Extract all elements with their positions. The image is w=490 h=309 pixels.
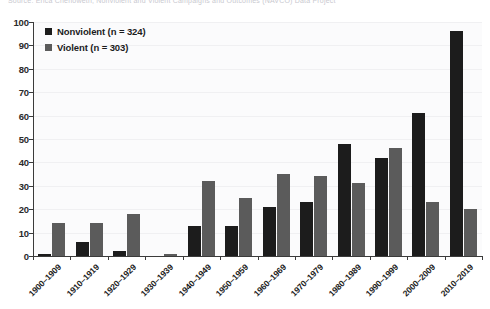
- bar-group: [450, 22, 477, 256]
- bar-group: [188, 22, 215, 256]
- x-tick-label: 2000–2009: [401, 262, 438, 299]
- x-tick-label: 1970–1979: [289, 262, 326, 299]
- x-tick-mark: [295, 256, 296, 260]
- y-tick-label: 100: [3, 17, 29, 28]
- x-tick-label: 1980–1989: [326, 262, 363, 299]
- bar-group: [338, 22, 365, 256]
- x-tick-mark: [70, 256, 71, 260]
- y-tick-label: 20: [3, 204, 29, 215]
- legend: Nonviolent (n = 324) Violent (n = 303): [45, 26, 146, 58]
- x-tick-mark: [258, 256, 259, 260]
- bar-group: [225, 22, 252, 256]
- chart-page: Source: Erica Chenoweth, Nonviolent and …: [0, 0, 490, 309]
- legend-swatch-nonviolent-icon: [45, 28, 52, 35]
- y-tick-label: 30: [3, 180, 29, 191]
- x-tick-label: 1900–1909: [27, 262, 64, 299]
- y-tick-mark: [29, 233, 33, 234]
- y-tick-mark: [29, 69, 33, 70]
- y-axis-line: [33, 22, 34, 257]
- x-tick-mark: [407, 256, 408, 260]
- bar-violent[interactable]: [90, 223, 103, 256]
- source-note: Source: Erica Chenoweth, Nonviolent and …: [8, 0, 482, 5]
- bar-group: [375, 22, 402, 256]
- bar-group: [150, 22, 177, 256]
- y-tick-label: 60: [3, 110, 29, 121]
- y-axis-labels: 0102030405060708090100: [0, 0, 29, 309]
- bar-violent[interactable]: [426, 202, 439, 256]
- x-tick-label: 1920–1929: [102, 262, 139, 299]
- legend-item-violent[interactable]: Violent (n = 303): [45, 42, 146, 53]
- bar-group: [412, 22, 439, 256]
- y-tick-mark: [29, 22, 33, 23]
- y-tick-mark: [29, 45, 33, 46]
- bar-violent[interactable]: [352, 183, 365, 256]
- legend-label-nonviolent: Nonviolent (n = 324): [57, 26, 146, 37]
- x-tick-mark: [332, 256, 333, 260]
- y-tick-mark: [29, 186, 33, 187]
- x-tick-mark: [183, 256, 184, 260]
- x-tick-label: 1950–1959: [214, 262, 251, 299]
- y-tick-label: 50: [3, 134, 29, 145]
- bar-violent[interactable]: [127, 214, 140, 256]
- y-tick-label: 80: [3, 63, 29, 74]
- bar-nonviolent[interactable]: [263, 207, 276, 256]
- bar-nonviolent[interactable]: [76, 242, 89, 256]
- bar-nonviolent[interactable]: [225, 226, 238, 256]
- x-tick-mark: [482, 256, 483, 260]
- y-tick-label: 40: [3, 157, 29, 168]
- x-tick-mark: [220, 256, 221, 260]
- y-tick-mark: [29, 162, 33, 163]
- x-tick-mark: [370, 256, 371, 260]
- bar-violent[interactable]: [202, 181, 215, 256]
- y-tick-mark: [29, 116, 33, 117]
- bar-nonviolent[interactable]: [300, 202, 313, 256]
- x-tick-label: 1910–1919: [64, 262, 101, 299]
- y-tick-label: 0: [3, 251, 29, 262]
- x-tick-mark: [33, 256, 34, 260]
- bar-group: [263, 22, 290, 256]
- bar-violent[interactable]: [389, 148, 402, 256]
- bar-violent[interactable]: [314, 176, 327, 256]
- legend-item-nonviolent[interactable]: Nonviolent (n = 324): [45, 26, 146, 37]
- x-tick-label: 1940–1949: [176, 262, 213, 299]
- legend-label-violent: Violent (n = 303): [57, 42, 128, 53]
- y-tick-label: 90: [3, 40, 29, 51]
- x-tick-mark: [108, 256, 109, 260]
- bar-nonviolent[interactable]: [188, 226, 201, 256]
- bar-violent[interactable]: [464, 209, 477, 256]
- y-tick-mark: [29, 139, 33, 140]
- y-tick-mark: [29, 209, 33, 210]
- bar-nonviolent[interactable]: [450, 31, 463, 256]
- x-tick-label: 1990–1999: [363, 262, 400, 299]
- x-tick-label: 2010–2019: [438, 262, 475, 299]
- y-tick-label: 10: [3, 227, 29, 238]
- legend-swatch-violent-icon: [45, 44, 52, 51]
- bar-violent[interactable]: [239, 198, 252, 257]
- bar-nonviolent[interactable]: [412, 113, 425, 256]
- y-tick-label: 70: [3, 87, 29, 98]
- bar-group: [300, 22, 327, 256]
- x-tick-label: 1960–1969: [251, 262, 288, 299]
- x-tick-mark: [145, 256, 146, 260]
- bar-violent[interactable]: [277, 174, 290, 256]
- y-tick-mark: [29, 92, 33, 93]
- x-tick-mark: [445, 256, 446, 260]
- bar-nonviolent[interactable]: [375, 158, 388, 256]
- x-tick-label: 1930–1939: [139, 262, 176, 299]
- bar-violent[interactable]: [52, 223, 65, 256]
- bar-nonviolent[interactable]: [338, 144, 351, 256]
